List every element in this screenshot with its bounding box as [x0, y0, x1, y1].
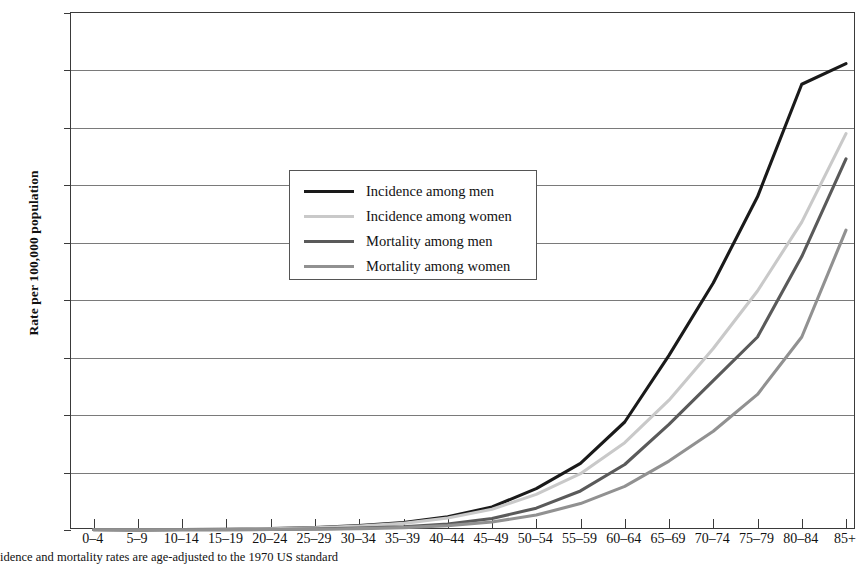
legend-swatch-0 — [304, 190, 354, 193]
x-tick-label-17: 85+ — [834, 532, 856, 546]
x-tick-label-4: 20–24 — [252, 532, 287, 546]
y-tick-mark-100 — [64, 415, 71, 416]
x-tick-label-7: 35–39 — [385, 532, 420, 546]
series-line-0 — [94, 64, 846, 530]
y-tick-mark-150 — [64, 358, 71, 359]
y-tick-mark-50 — [64, 473, 71, 474]
footnote: idence and mortality rates are age-adjus… — [0, 550, 863, 564]
legend-label-3: Mortality among women — [366, 259, 510, 274]
x-tick-label-11: 55–59 — [562, 532, 597, 546]
x-tick-label-16: 80–84 — [783, 532, 818, 546]
legend-item-3: Mortality among women — [290, 254, 536, 279]
x-tick-label-8: 40–44 — [429, 532, 464, 546]
legend-swatch-1 — [304, 215, 354, 218]
chart-figure: Rate per 100,000 population 050100150200… — [0, 0, 863, 564]
y-tick-mark-400 — [64, 70, 71, 71]
x-tick-label-3: 15–19 — [208, 532, 243, 546]
legend-label-0: Incidence among men — [366, 184, 494, 199]
legend-item-0: Incidence among men — [290, 179, 536, 204]
x-tick-label-12: 60–64 — [606, 532, 641, 546]
x-tick-label-6: 30–34 — [341, 532, 376, 546]
x-tick-label-13: 65–69 — [651, 532, 686, 546]
legend-label-1: Incidence among women — [366, 209, 512, 224]
y-axis-title: Rate per 100,000 population — [26, 123, 42, 383]
plot-area: Incidence among menIncidence among women… — [70, 12, 855, 529]
x-tick-label-1: 5–9 — [126, 532, 147, 546]
y-tick-mark-300 — [64, 185, 71, 186]
x-tick-label-15: 75–79 — [739, 532, 774, 546]
y-tick-mark-450 — [64, 13, 71, 14]
x-tick-label-5: 25–29 — [296, 532, 331, 546]
legend-swatch-3 — [304, 265, 354, 268]
y-tick-mark-0 — [64, 530, 71, 531]
legend: Incidence among menIncidence among women… — [289, 170, 537, 280]
x-tick-label-9: 45–49 — [474, 532, 509, 546]
legend-swatch-2 — [304, 240, 354, 243]
x-tick-label-0: 0–4 — [82, 532, 103, 546]
legend-item-1: Incidence among women — [290, 204, 536, 229]
legend-item-2: Mortality among men — [290, 229, 536, 254]
x-tick-label-10: 50–54 — [518, 532, 553, 546]
x-tick-label-14: 70–74 — [695, 532, 730, 546]
x-tick-label-2: 10–14 — [164, 532, 199, 546]
y-tick-mark-350 — [64, 128, 71, 129]
legend-label-2: Mortality among men — [366, 234, 492, 249]
y-tick-mark-250 — [64, 243, 71, 244]
y-tick-mark-200 — [64, 300, 71, 301]
